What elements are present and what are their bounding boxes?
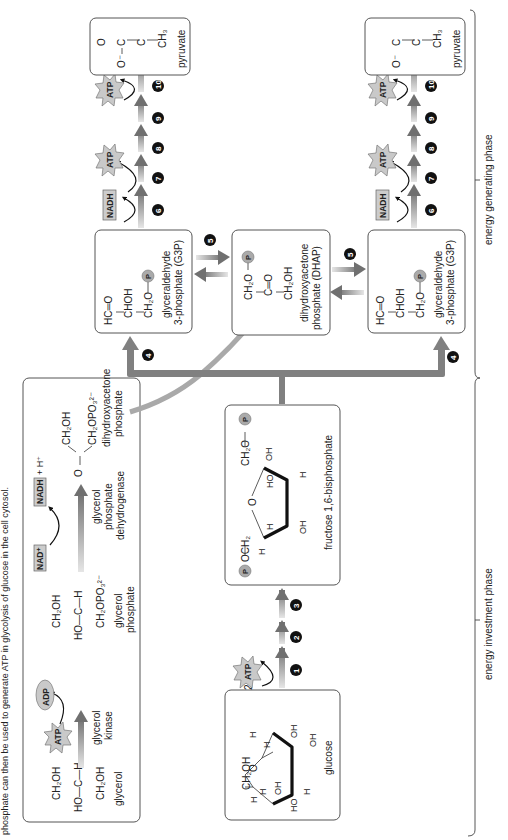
- svg-text:OH: OH: [289, 725, 299, 739]
- svg-text:CH₂O: CH₂O: [415, 292, 426, 318]
- isomerase-arrows-right: 5: [330, 248, 366, 300]
- kinase-arrow: [78, 718, 84, 768]
- nadh-box-right: NADH: [376, 190, 389, 220]
- svg-text:CHOH: CHOH: [123, 289, 134, 318]
- svg-text:H: H: [249, 797, 259, 804]
- svg-text:10: 10: [154, 80, 163, 89]
- atp-star-step10-left: ATP: [95, 74, 124, 106]
- investment-steps: 1 2 3 2 ATP: [233, 588, 302, 690]
- svg-text:9: 9: [154, 116, 163, 121]
- svg-text:HO—C—H: HO—C—H: [73, 591, 84, 640]
- nad-plus-box: NAD⁺: [34, 545, 46, 571]
- svg-text:10: 10: [427, 80, 436, 89]
- adp-ellipse: ADP: [36, 680, 54, 710]
- svg-text:3-phosphate (G3P): 3-phosphate (G3P): [173, 240, 184, 325]
- svg-text:dihydroxyacetone: dihydroxyacetone: [299, 243, 310, 322]
- svg-text:O⁻: O⁻: [391, 55, 402, 68]
- svg-text:glycerol: glycerol: [113, 594, 124, 628]
- svg-text:O: O: [247, 498, 258, 506]
- svg-text:P: P: [241, 569, 250, 574]
- svg-text:CH₂OH: CH₂OH: [61, 412, 72, 445]
- svg-text:O⁻: O⁻: [116, 55, 127, 68]
- svg-text:kinase: kinase: [103, 711, 114, 740]
- svg-text:H: H: [302, 789, 312, 796]
- svg-text:CH₃: CH₃: [432, 29, 443, 48]
- fructose-box: P OCH₂ P CH₂O O H H OH HO H OH fructose …: [225, 405, 340, 585]
- svg-text:NADH: NADH: [378, 193, 388, 218]
- svg-text:C═O: C═O: [263, 274, 274, 296]
- svg-text:pyruvate: pyruvate: [451, 29, 462, 68]
- svg-text:CH₂OH: CH₂OH: [51, 767, 62, 800]
- step-4-badge-right: 4: [449, 355, 458, 360]
- svg-text:H: H: [257, 549, 267, 556]
- atp-star-investment: ATP: [233, 656, 262, 688]
- svg-text:dihydroxyacetone: dihydroxyacetone: [101, 368, 112, 447]
- svg-text:H: H: [258, 789, 268, 796]
- svg-text:glycerol: glycerol: [91, 490, 102, 524]
- dehydrogenase-arrow: [78, 492, 84, 572]
- pyruvate-box-left: O⁻ C C O CH₃ pyruvate: [90, 18, 190, 75]
- step-5-badge-right: 5: [346, 252, 355, 257]
- atp-star-step10-right: ATP: [368, 74, 397, 106]
- svg-text:CH₂OPO₃²⁻: CH₂OPO₃²⁻: [87, 392, 98, 445]
- svg-text:P: P: [244, 255, 253, 260]
- nadh-box-panel: NADH: [34, 478, 46, 506]
- step-1-badge: 1: [292, 668, 301, 673]
- svg-text:NADH: NADH: [105, 193, 115, 218]
- svg-text:ATP: ATP: [53, 728, 63, 745]
- svg-text:P: P: [241, 417, 250, 422]
- svg-text:glyceraldehyde: glyceraldehyde: [433, 250, 444, 318]
- svg-text:6: 6: [154, 208, 163, 213]
- energy-generating-brace: energy generating phase: [470, 10, 494, 378]
- svg-text:phosphate: phosphate: [125, 586, 136, 633]
- svg-text:ATP: ATP: [378, 151, 388, 168]
- step-5-badge-left: 5: [206, 238, 215, 243]
- glucose-box: CH₂OH O H H OH HO H H OH H OH glucose: [225, 690, 340, 820]
- svg-text:HO: HO: [265, 475, 275, 489]
- svg-text:7: 7: [427, 176, 436, 181]
- svg-text:CH₂O: CH₂O: [243, 274, 254, 300]
- svg-text:NADH: NADH: [35, 479, 45, 504]
- svg-text:ATP: ATP: [243, 663, 253, 680]
- svg-text:NAD⁺: NAD⁺: [35, 547, 45, 570]
- svg-text:O: O: [73, 469, 84, 477]
- step-3-badge: 3: [292, 603, 301, 608]
- glycerol-label: glycerol: [113, 772, 124, 806]
- svg-text:P: P: [144, 274, 153, 279]
- svg-text:CH₂OH: CH₂OH: [283, 267, 294, 300]
- svg-text:pyruvate: pyruvate: [176, 29, 187, 68]
- svg-text:HO—C—H: HO—C—H: [73, 763, 84, 812]
- svg-text:ATP: ATP: [105, 81, 115, 98]
- fructose-label: fructose 1,6-bisphosphate: [323, 434, 334, 550]
- energy-generating-phase-label: energy generating phase: [483, 134, 494, 245]
- svg-text:dehydrogenase: dehydrogenase: [115, 471, 126, 540]
- energy-investment-phase-label: energy investment phase: [483, 568, 494, 680]
- svg-text:CH₂O: CH₂O: [240, 440, 251, 466]
- isomerase-arrows-left: 5: [194, 234, 230, 282]
- svg-text:phosphate: phosphate: [113, 390, 124, 437]
- glucose-label: glucose: [323, 740, 334, 775]
- svg-text:phosphate (DHAP): phosphate (DHAP): [311, 246, 322, 330]
- svg-text:H: H: [262, 742, 272, 749]
- glycerol-panel: CH₂OH HO—C—H CH₂OH glycerol ATP ADP glyc…: [23, 368, 140, 822]
- svg-text:CH₂OPO₃²⁻: CH₂OPO₃²⁻: [95, 575, 106, 628]
- svg-text:HC═O: HC═O: [103, 295, 114, 325]
- svg-text:8: 8: [154, 146, 163, 151]
- energy-investment-brace: energy investment phase: [468, 378, 494, 836]
- svg-text:ATP: ATP: [105, 151, 115, 168]
- svg-text:ADP: ADP: [41, 688, 51, 706]
- svg-text:+ H⁺: + H⁺: [35, 456, 45, 475]
- atp-star-step7-left: ATP: [95, 144, 124, 176]
- caption-text: phosphate can then be used to generate A…: [0, 487, 10, 835]
- g3p-box-right: HC═O CHOH CH₂O P glyceraldehyde 3-phosph…: [368, 230, 465, 333]
- pyruvate-box-right: O⁻ C C CH₃ pyruvate: [365, 18, 465, 75]
- glycolysis-diagram: phosphate can then be used to generate A…: [0, 0, 508, 840]
- svg-text:CH₃: CH₃: [157, 29, 168, 48]
- svg-text:HO: HO: [289, 799, 299, 813]
- svg-text:C: C: [391, 39, 402, 46]
- svg-text:OH: OH: [298, 521, 308, 535]
- svg-text:O: O: [96, 38, 107, 46]
- step-2-badge: 2: [292, 635, 301, 640]
- svg-text:C: C: [116, 39, 127, 46]
- svg-text:9: 9: [427, 116, 436, 121]
